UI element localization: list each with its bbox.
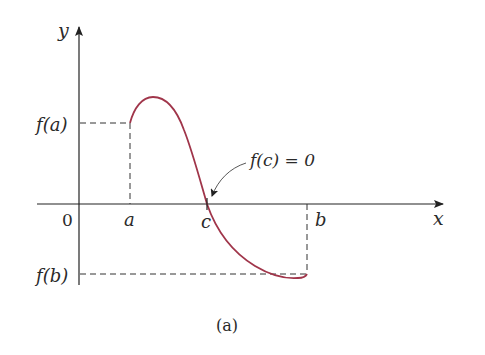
function-curve [130, 97, 307, 278]
fc-annotation: f(c) = 0 [248, 150, 315, 170]
fb-label: f(b) [34, 265, 68, 286]
annotation-arrow [212, 163, 246, 196]
c-label: c [201, 211, 211, 232]
origin-label: 0 [62, 210, 73, 230]
fa-label: f(a) [34, 114, 67, 135]
ivt-diagram: y x 0 a c b f(a) f(b) f(c) = 0 (a) [0, 0, 485, 355]
a-label: a [124, 209, 135, 230]
figure-caption: (a) [216, 316, 238, 335]
x-axis-label: x [433, 207, 444, 229]
y-axis-label: y [57, 19, 69, 41]
b-label: b [315, 209, 327, 230]
